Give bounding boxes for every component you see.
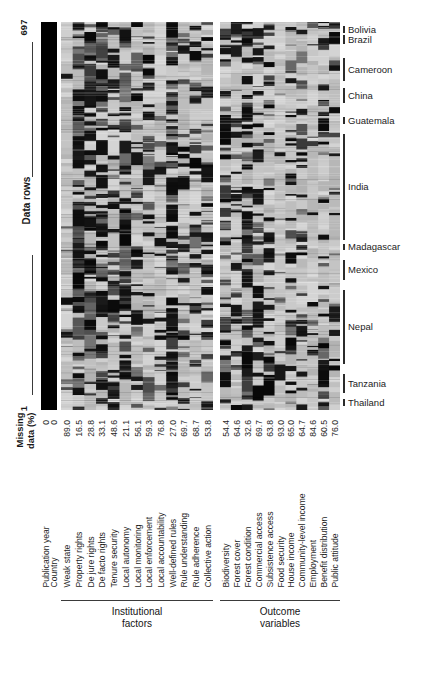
country-tick-bolivia <box>343 26 345 33</box>
country-label-guatemala: Guatemala <box>348 116 394 126</box>
column-collective-action: 53.8Collective action <box>202 412 213 592</box>
data-rows-axis: 697 1 Data rows <box>8 20 42 412</box>
country-label-mexico: Mexico <box>348 265 378 275</box>
column-name: Local accountability <box>156 418 165 588</box>
heatmap-panel-institutional-factors <box>61 22 213 410</box>
country-label-thailand: Thailand <box>348 398 384 408</box>
heatmap-canvas-institutional <box>61 22 213 410</box>
column-name: Employment <box>309 418 318 588</box>
country-label-madagascar: Madagascar <box>348 242 400 252</box>
column-tenure-security: 48.6Tenure security <box>108 412 119 592</box>
column-local-autonomy: 21.1Local autonomy <box>120 412 131 592</box>
country-axis: BoliviaBrazilCameroonChinaGuatemalaIndia… <box>343 22 434 412</box>
country-label-brazil: Brazil <box>348 35 372 45</box>
country-tick-nepal <box>343 290 345 364</box>
column-employment: 84.6Employment <box>307 412 318 592</box>
country-label-tanzania: Tanzania <box>348 379 386 389</box>
heatmap-figure: 697 1 Data rows BoliviaBrazilCameroonChi… <box>0 0 434 677</box>
group-label-line1: Outcome <box>220 606 340 618</box>
column-name: Rule adherence <box>191 418 200 588</box>
column-local-enforcement: 59.3Local enforcement <box>143 412 154 592</box>
column-benefit-distribution: 60.5Benefit distribution <box>318 412 329 592</box>
column-labels: 0Publication year0Country89.0Weak state1… <box>0 412 434 592</box>
country-tick-thailand <box>343 399 345 406</box>
column-local-accountability: 76.8Local accountability <box>155 412 166 592</box>
column-name: House income <box>287 418 296 588</box>
column-weak-state: 89.0Weak state <box>61 412 72 592</box>
heatmap-panel-identifiers <box>41 22 57 410</box>
column-name: Local monitoring <box>133 418 142 588</box>
group-label-line1: Institutional <box>61 606 213 618</box>
group-label-outcome: Outcomevariables <box>220 606 340 629</box>
column-forest-condition: 32.6Forest condition <box>242 412 253 592</box>
column-well-defined-rules: 27.0Well-defined rules <box>167 412 178 592</box>
column-name: Collective action <box>203 418 212 588</box>
column-rule-adherence: 68.7Rule adherence <box>190 412 201 592</box>
column-group-brackets: InstitutionalfactorsOutcomevariables <box>0 600 434 660</box>
row-axis-bracket-upper <box>32 42 33 177</box>
group-rule-institutional <box>61 600 213 601</box>
country-label-nepal: Nepal <box>348 322 373 332</box>
column-name: Forest condition <box>243 418 252 588</box>
country-label-india: India <box>348 182 369 192</box>
column-country: 0Country <box>48 412 59 592</box>
column-name: Forest cover <box>232 418 241 588</box>
column-name: Property rights <box>75 418 84 588</box>
column-food-security: 93.0Food security <box>275 412 286 592</box>
country-tick-cameroon <box>343 58 345 81</box>
column-name: Community-level income <box>298 418 307 588</box>
row-axis-max-value: 697 <box>18 8 29 48</box>
column-name: Tenure security <box>110 418 119 588</box>
group-label-institutional: Institutionalfactors <box>61 606 213 629</box>
column-name: De jure rights <box>86 418 95 588</box>
column-rule-understanding: 69.7Rule understanding <box>178 412 189 592</box>
column-de-facto-rights: 33.1De facto rights <box>96 412 107 592</box>
row-axis-bracket-lower <box>32 255 33 395</box>
country-tick-tanzania <box>343 374 345 393</box>
column-local-monitoring: 56.1Local monitoring <box>132 412 143 592</box>
column-de-jure-rights: 28.8De jure rights <box>85 412 96 592</box>
column-property-rights: 16.5Property rights <box>73 412 84 592</box>
column-name: Food security <box>276 418 285 588</box>
country-label-bolivia: Bolivia <box>348 25 376 35</box>
column-forest-cover: 64.6Forest cover <box>231 412 242 592</box>
group-label-line2: variables <box>220 618 340 630</box>
row-axis-label: Data rows <box>21 151 32 251</box>
country-tick-mexico <box>343 260 345 280</box>
group-rule-outcome <box>220 600 340 601</box>
column-name: Rule understanding <box>180 418 189 588</box>
column-name: Local enforcement <box>145 418 154 588</box>
column-biodiversity: 54.4Biodiversity <box>220 412 231 592</box>
column-name: De facto rights <box>98 418 107 588</box>
country-label-cameroon: Cameroon <box>348 65 392 75</box>
column-name: Well-defined rules <box>168 418 177 588</box>
column-name: Public attitude <box>331 418 340 588</box>
column-house-income: 65.0House income <box>285 412 296 592</box>
column-name: Country <box>49 418 58 588</box>
heatmap-canvas-outcome <box>220 22 340 410</box>
country-tick-madagascar <box>343 244 345 250</box>
heatmap-panel-outcome-variables <box>220 22 340 410</box>
country-tick-china <box>343 88 345 103</box>
country-tick-india <box>343 134 345 240</box>
column-name: Local autonomy <box>121 418 130 588</box>
column-commercial-access: 69.7Commercial access <box>253 412 264 592</box>
column-name: Biodiversity <box>221 418 230 588</box>
column-community-level-income: 64.7Community-level income <box>296 412 307 592</box>
column-name: Commercial access <box>254 418 263 588</box>
country-tick-brazil <box>343 35 345 44</box>
column-name: Subsistence access <box>265 418 274 588</box>
country-label-china: China <box>348 91 373 101</box>
column-name: Benefit distribution <box>320 418 329 588</box>
column-public-attitude: 76.0Public attitude <box>329 412 340 592</box>
column-subsistence-access: 63.8Subsistence access <box>264 412 275 592</box>
group-label-line2: factors <box>61 618 213 630</box>
column-name: Weak state <box>63 418 72 588</box>
country-tick-guatemala <box>343 117 345 124</box>
